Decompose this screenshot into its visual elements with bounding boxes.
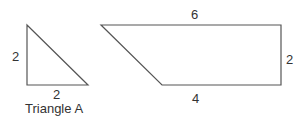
- triangle-height-label: 2: [12, 49, 19, 64]
- triangle-name-label: Triangle A: [25, 101, 83, 116]
- trapezoid-right-label: 2: [286, 52, 293, 67]
- diagram-canvas: 2 2 Triangle A 6 2 4: [0, 0, 303, 116]
- trapezoid-shape: [101, 25, 281, 85]
- triangle-base-label: 2: [53, 87, 60, 102]
- trapezoid-top-label: 6: [191, 7, 198, 22]
- trapezoid-bottom-label: 4: [192, 91, 199, 106]
- triangle-a-shape: [27, 25, 88, 85]
